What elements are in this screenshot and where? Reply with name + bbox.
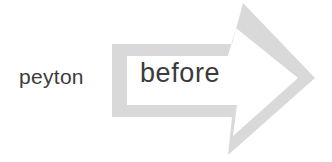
outside-label-peyton: peyton <box>19 66 84 87</box>
inside-label-before: before <box>140 60 220 87</box>
illustration-canvas: peyton before <box>0 0 332 162</box>
